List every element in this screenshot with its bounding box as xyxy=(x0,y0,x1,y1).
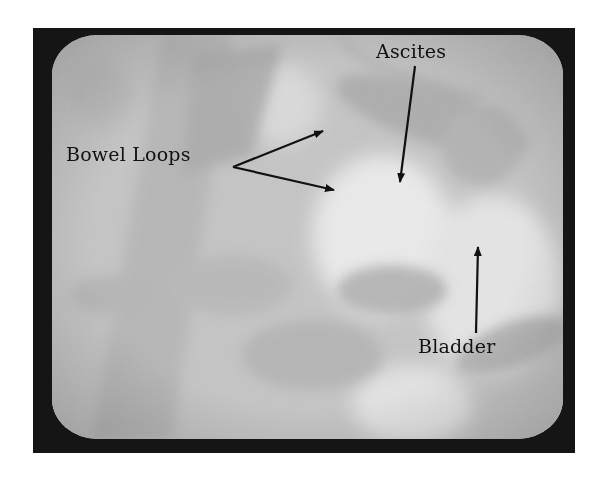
monitor-frame xyxy=(33,28,575,453)
bowel-loops-label: Bowel Loops xyxy=(66,143,191,165)
ultrasound-screen xyxy=(52,35,563,439)
bladder-label: Bladder xyxy=(418,335,495,357)
ascites-label: Ascites xyxy=(376,40,446,62)
ultrasound-image xyxy=(52,35,563,439)
